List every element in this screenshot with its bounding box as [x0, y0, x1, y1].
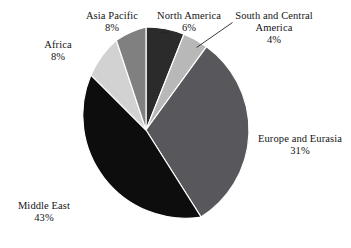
pie-label-south-and-central-america: South and Central America 4%: [232, 10, 316, 45]
pie-label-north-america-name: North America: [146, 10, 232, 22]
pie-label-europe-and-eurasia-name: Europe and Eurasia: [252, 133, 348, 145]
pie-chart: Asia Pacific 8% North America 6% South a…: [0, 0, 351, 248]
pie-label-asia-pacific-name: Asia Pacific: [70, 10, 154, 22]
pie-label-middle-east-value: 43%: [2, 212, 86, 224]
pie-label-north-america: North America 6%: [146, 10, 232, 34]
pie-label-asia-pacific-value: 8%: [70, 22, 154, 34]
pie-label-europe-and-eurasia-value: 31%: [252, 145, 348, 157]
pie-label-south-and-central-america-name-line2: America: [232, 22, 316, 34]
pie-label-middle-east: Middle East 43%: [2, 200, 86, 224]
pie-label-north-america-value: 6%: [146, 22, 232, 34]
pie-label-middle-east-name: Middle East: [2, 200, 86, 212]
pie-label-africa: Africa 8%: [22, 39, 94, 63]
pie-label-south-and-central-america-name-line1: South and Central: [232, 10, 316, 22]
pie-label-europe-and-eurasia: Europe and Eurasia 31%: [252, 133, 348, 157]
pie-label-africa-value: 8%: [22, 51, 94, 63]
pie-label-africa-name: Africa: [22, 39, 94, 51]
pie-label-south-and-central-america-value: 4%: [232, 34, 316, 46]
pie-label-asia-pacific: Asia Pacific 8%: [70, 10, 154, 34]
